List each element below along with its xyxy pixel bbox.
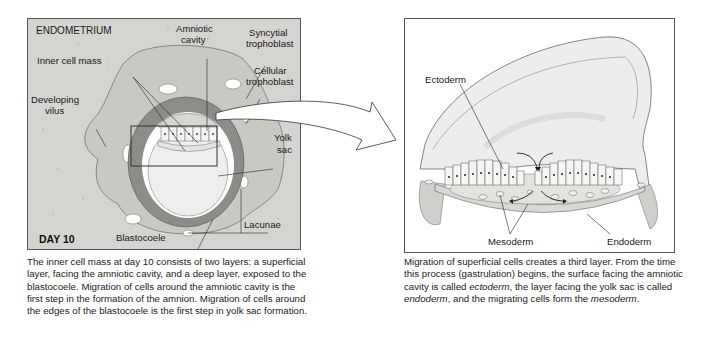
- day10-illustration: [28, 19, 301, 250]
- caption-term-ectoderm: ectoderm: [469, 281, 509, 292]
- label-mesoderm: Mesoderm: [488, 236, 533, 247]
- label-cellular-2: trophoblast: [246, 76, 293, 87]
- label-amniotic-cavity-2: cavity: [181, 34, 206, 45]
- day-10-label: DAY 10: [39, 233, 75, 245]
- caption-term-mesoderm: mesoderm: [591, 293, 637, 304]
- label-inner-cell-mass: Inner cell mass: [37, 55, 102, 66]
- label-developing-vilus-1: Developing: [31, 94, 79, 105]
- caption-part: , and the migrating cells form the: [448, 293, 591, 304]
- label-amniotic-cavity-1: Amniotic: [176, 23, 213, 34]
- label-endoderm: Endoderm: [607, 236, 651, 247]
- label-lacunae: Lacunae: [244, 219, 281, 230]
- caption-term-endoderm: endoderm: [404, 293, 448, 304]
- label-yolk-sac-1: Yolk: [274, 132, 292, 143]
- day12-diagram-panel: Ectoderm Mesoderm Endoderm DAY 12: [404, 18, 675, 253]
- day10-diagram-panel: ENDOMETRIUM Amniotic cavity Syncytial tr…: [27, 18, 301, 250]
- label-syncytial-1: Syncytial: [249, 27, 287, 38]
- label-developing-vilus-2: vilus: [45, 105, 64, 116]
- label-ectoderm: Ectoderm: [425, 74, 466, 85]
- caption-part: .: [637, 293, 640, 304]
- day12-illustration: [405, 19, 675, 253]
- caption-part: , the layer facing the yolk sac is calle…: [510, 281, 673, 292]
- label-endometrium: ENDOMETRIUM: [36, 25, 112, 36]
- label-cellular-1: Cellular: [254, 65, 287, 76]
- label-syncytial-2: trophoblast: [246, 38, 293, 49]
- day10-caption: The inner cell mass at day 10 consists o…: [27, 256, 307, 317]
- label-blastocoele: Blastocoele: [116, 232, 166, 243]
- day12-caption: Migration of superficial cells creates a…: [404, 256, 684, 305]
- day-12-label: DAY 12: [413, 250, 449, 253]
- label-yolk-sac-2: sac: [277, 144, 292, 155]
